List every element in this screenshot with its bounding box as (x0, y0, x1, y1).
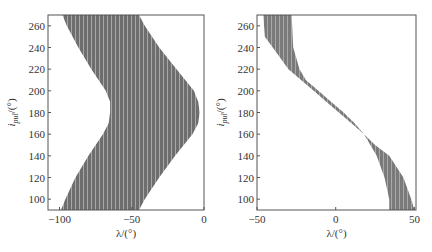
y-tick-label: 260 (238, 20, 255, 32)
x-axis-label: λ/(°) (116, 227, 136, 240)
y-tick-label: 120 (238, 172, 255, 184)
y-tick-label: 100 (29, 193, 46, 205)
y-axis-label: ipul/(°) (5, 98, 20, 126)
y-tick-label: 200 (29, 85, 46, 97)
y-tick-label: 180 (238, 107, 255, 119)
y-axis-label: ipul/(°) (216, 98, 229, 126)
feasible-region (61, 15, 200, 210)
x-tick-label: 0 (201, 213, 207, 225)
y-tick-label: 220 (29, 63, 46, 75)
y-tick-label: 220 (238, 63, 255, 75)
y-tick-label: 200 (238, 85, 255, 97)
x-tick-label: −100 (48, 213, 71, 225)
left-chart: 100120140160180200220240260−100−500λ/(°)… (0, 0, 216, 252)
left-chart-panel: 100120140160180200220240260−100−500λ/(°)… (0, 0, 216, 252)
y-tick-label: 100 (238, 193, 255, 205)
y-tick-label: 260 (29, 20, 46, 32)
x-tick-label: −50 (248, 213, 266, 225)
y-tick-label: 240 (29, 42, 46, 54)
x-tick-label: 0 (333, 213, 339, 225)
x-axis-label: λ/(°) (326, 227, 346, 240)
y-tick-label: 180 (29, 107, 46, 119)
y-tick-label: 120 (29, 172, 46, 184)
x-tick-label: −50 (123, 213, 141, 225)
y-tick-label: 160 (238, 128, 255, 140)
right-chart-panel: 100120140160180200220240260−50050λ/(°)ip… (216, 0, 432, 252)
y-tick-label: 240 (238, 42, 255, 54)
y-tick-label: 160 (29, 128, 46, 140)
x-tick-label: 50 (409, 213, 421, 225)
feasible-region (263, 15, 414, 210)
y-tick-label: 140 (238, 150, 255, 162)
y-tick-label: 140 (29, 150, 46, 162)
right-chart: 100120140160180200220240260−50050λ/(°)ip… (216, 0, 432, 252)
